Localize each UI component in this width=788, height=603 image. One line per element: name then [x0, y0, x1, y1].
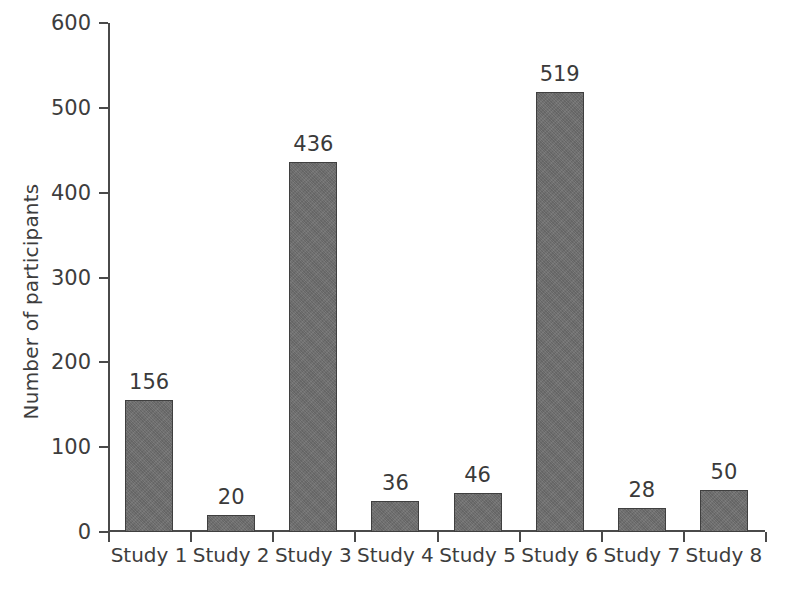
x-axis-category-label: Study 8: [683, 543, 765, 567]
bar-slot: 436: [272, 23, 354, 532]
x-axis-category-label: Study 2: [190, 543, 272, 567]
bar: [371, 501, 419, 532]
x-axis-tick: [601, 532, 603, 542]
x-axis-category-label: Study 3: [272, 543, 354, 567]
y-axis-tick-label: 100: [51, 435, 91, 459]
bar-value-label: 20: [218, 485, 245, 509]
y-axis-tick-label: 400: [51, 181, 91, 205]
x-axis-tick: [437, 532, 439, 542]
bar: [207, 515, 255, 532]
x-axis-category-label: Study 4: [354, 543, 436, 567]
bar: [454, 493, 502, 532]
y-axis-tick: 200: [99, 361, 108, 363]
bar: [618, 508, 666, 532]
bar-value-label: 36: [382, 471, 409, 495]
bar-slot: 156: [108, 23, 190, 532]
x-axis-category-label: Study 6: [519, 543, 601, 567]
bar-value-label: 28: [628, 478, 655, 502]
bar-slot: 50: [683, 23, 765, 532]
bar-slot: 28: [601, 23, 683, 532]
x-axis-tick: [272, 532, 274, 542]
bar: [536, 92, 584, 532]
bar-value-label: 156: [129, 370, 169, 394]
x-axis-tick: [190, 532, 192, 542]
x-axis-tick: [354, 532, 356, 542]
bar: [700, 490, 748, 532]
y-axis-tick: 0: [99, 531, 108, 533]
bar: [289, 162, 337, 532]
y-axis-tick: 600: [99, 22, 108, 24]
x-axis-tick: [519, 532, 521, 542]
bar-value-label: 46: [464, 463, 491, 487]
x-axis-tick: [108, 532, 110, 542]
bar: [125, 400, 173, 532]
y-axis-tick-label: 300: [51, 266, 91, 290]
y-axis-tick: 500: [99, 107, 108, 109]
y-axis-tick-label: 500: [51, 96, 91, 120]
x-axis-tick: [683, 532, 685, 542]
y-axis-tick: 100: [99, 446, 108, 448]
x-axis-category-label: Study 5: [437, 543, 519, 567]
bar-chart-figure: Number of participants 01002003004005006…: [0, 0, 788, 603]
bar-slot: 46: [437, 23, 519, 532]
x-axis-category-label: Study 1: [108, 543, 190, 567]
y-axis-label: Number of participants: [14, 0, 48, 603]
y-axis-tick: 300: [99, 277, 108, 279]
x-axis-tick: [765, 532, 767, 542]
bar-slot: 20: [190, 23, 272, 532]
bar-slot: 36: [354, 23, 436, 532]
y-axis-tick-label: 600: [51, 11, 91, 35]
y-axis-tick: 400: [99, 192, 108, 194]
bar-value-label: 436: [293, 132, 333, 156]
plot-area: 0100200300400500600 1562043636465192850: [108, 23, 765, 532]
y-axis-tick-label: 200: [51, 350, 91, 374]
y-axis-tick-label: 0: [78, 520, 91, 544]
bar-slot: 519: [519, 23, 601, 532]
bar-value-label: 519: [540, 62, 580, 86]
x-axis-category-label: Study 7: [601, 543, 683, 567]
bar-value-label: 50: [711, 460, 738, 484]
